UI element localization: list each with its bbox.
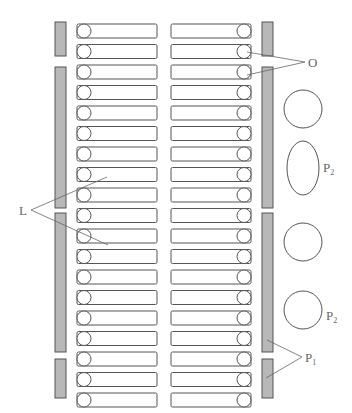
right-tube-end-icon [237, 229, 251, 243]
left-tube [77, 106, 157, 120]
left-tube-end-icon [77, 209, 91, 223]
label-p2-top: P2 [323, 160, 334, 177]
particle-circle-4 [284, 291, 322, 329]
right-tube-end-icon [237, 393, 251, 407]
particle-ellipse-2 [287, 141, 319, 195]
left-tube-end-icon [77, 270, 91, 284]
left-tube [77, 270, 157, 284]
right-tube [171, 24, 251, 38]
right-tube [171, 291, 251, 305]
leader-o-1 [247, 52, 305, 62]
left-tube-end-icon [77, 311, 91, 325]
right-tube [171, 270, 251, 284]
left-tube [77, 209, 157, 223]
right-tube-end-icon [237, 250, 251, 264]
label-o: O [308, 55, 317, 70]
left-tube [77, 311, 157, 325]
right-tube [171, 86, 251, 100]
left-tube [77, 45, 157, 59]
left-tube [77, 250, 157, 264]
left-tube-end-icon [77, 291, 91, 305]
particle-circle-3 [284, 223, 322, 261]
left-plate-3 [55, 213, 66, 352]
left-tube [77, 168, 157, 182]
right-tube [171, 250, 251, 264]
right-tube-end-icon [237, 65, 251, 79]
right-tube-end-icon [237, 168, 251, 182]
left-plate-1 [55, 22, 66, 56]
right-tube-end-icon [237, 373, 251, 387]
left-tube-end-icon [77, 373, 91, 387]
right-tube [171, 45, 251, 59]
left-tube [77, 291, 157, 305]
right-tube [171, 168, 251, 182]
left-plate-2 [55, 67, 66, 208]
right-tube [171, 127, 251, 141]
left-tube [77, 352, 157, 366]
right-tube [171, 65, 251, 79]
left-tube-end-icon [77, 106, 91, 120]
right-tube-end-icon [237, 106, 251, 120]
right-tube [171, 188, 251, 202]
left-tube-end-icon [77, 127, 91, 141]
label-p1: P1 [305, 350, 316, 367]
left-tube [77, 147, 157, 161]
right-tube-end-icon [237, 188, 251, 202]
right-plate-3 [262, 213, 273, 352]
right-tube-end-icon [237, 332, 251, 346]
particle-circle-1 [284, 90, 322, 128]
right-plates [262, 22, 273, 398]
left-tube-end-icon [77, 250, 91, 264]
left-tube [77, 127, 157, 141]
right-plate-4 [262, 359, 273, 398]
left-tube [77, 373, 157, 387]
left-tube-end-icon [77, 147, 91, 161]
left-tube [77, 393, 157, 407]
right-tube [171, 147, 251, 161]
left-tube [77, 65, 157, 79]
left-tube [77, 86, 157, 100]
left-plate-4 [55, 359, 66, 398]
left-tube-end-icon [77, 352, 91, 366]
right-tube [171, 393, 251, 407]
right-tube-end-icon [237, 270, 251, 284]
right-tube-end-icon [237, 311, 251, 325]
right-tube-end-icon [237, 86, 251, 100]
leader-o-2 [247, 62, 305, 75]
right-tube-end-icon [237, 147, 251, 161]
left-tube-end-icon [77, 332, 91, 346]
right-tube [171, 352, 251, 366]
right-tube-end-icon [237, 352, 251, 366]
left-tube-end-icon [77, 168, 91, 182]
right-tube [171, 332, 251, 346]
right-tube [171, 311, 251, 325]
right-tube [171, 229, 251, 243]
right-tube-end-icon [237, 209, 251, 223]
left-tube [77, 188, 157, 202]
label-l: L [19, 203, 27, 218]
right-tube-end-icon [237, 24, 251, 38]
left-tube-end-icon [77, 188, 91, 202]
left-tube-end-icon [77, 45, 91, 59]
right-tube [171, 373, 251, 387]
left-plates [55, 22, 66, 398]
left-tube-end-icon [77, 86, 91, 100]
tube-arrangement-diagram: O L P2 P2 P1 [0, 0, 352, 413]
right-tube-column [171, 24, 251, 407]
right-plate-2 [262, 67, 273, 208]
left-tube [77, 332, 157, 346]
right-tube [171, 209, 251, 223]
right-tube-end-icon [237, 45, 251, 59]
label-p2-bottom: P2 [326, 308, 337, 325]
left-tube-end-icon [77, 393, 91, 407]
particle-shapes [284, 90, 322, 329]
right-plate-1 [262, 22, 273, 56]
left-tube [77, 24, 157, 38]
right-tube-end-icon [237, 127, 251, 141]
left-tube-column [77, 24, 157, 407]
right-tube [171, 106, 251, 120]
right-tube-end-icon [237, 291, 251, 305]
left-tube-end-icon [77, 24, 91, 38]
left-tube-end-icon [77, 65, 91, 79]
